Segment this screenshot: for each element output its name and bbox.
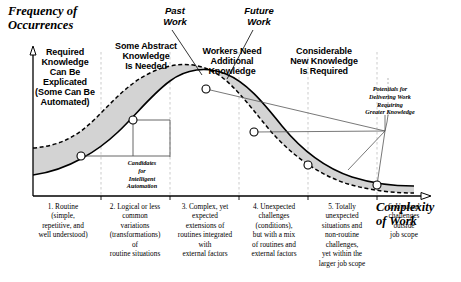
band-label-line: Is Needed (103, 61, 189, 71)
annotation-line: Intelligent (113, 175, 171, 183)
x-category-2: 2. Logical or less common variations (tr… (99, 202, 171, 259)
x-category-1: 1. Routine (simple, repetitive, and well… (28, 202, 98, 240)
band-label-line: (Some Can Be (22, 87, 108, 97)
y-axis-title-line1: Frequency of (8, 4, 138, 18)
band-label-line: Workers Need (190, 46, 274, 56)
x-category-6: 6. Unusual challenges outside job scope (376, 202, 432, 240)
marker-potentials-tail (373, 181, 381, 189)
band-label-line: Explicated (22, 77, 108, 87)
x-category-line: yet within the (308, 249, 376, 258)
x-category-line: repetitive, and (28, 221, 98, 230)
band-label-line: Required (22, 47, 108, 57)
marker-workers (202, 85, 210, 93)
x-category-line: variations (99, 221, 171, 230)
callout-past-work: Past Work (148, 6, 202, 27)
annotation-line: Delivering Work (344, 93, 436, 101)
x-category-line: 1. Routine (28, 202, 98, 211)
x-category-line: unexpected (308, 211, 376, 220)
annotation-line: Potentials for (344, 85, 436, 93)
band-label-line: Is Required (274, 66, 374, 76)
x-category-line: but with a mix (239, 230, 309, 239)
marker-midband (250, 128, 258, 136)
x-category-line: 2. Logical or less (99, 202, 171, 211)
annotation-line: Automation (113, 182, 171, 190)
x-category-line: common (99, 211, 171, 220)
band-label-line: Additional (190, 56, 274, 66)
x-category-line: 3. Complex, yet (169, 202, 241, 211)
x-category-line: job scope (376, 230, 432, 239)
annotation-candidates-for-intelligent-automation: Candidates for Intelligent Automation (113, 159, 171, 190)
x-category-line: of (99, 240, 171, 249)
x-category-line: non-routine (308, 230, 376, 239)
x-category-4: 4. Unexpected challenges (conditions), b… (239, 202, 309, 259)
x-category-line: well understood) (28, 230, 98, 239)
x-category-line: (conditions), (239, 221, 309, 230)
x-category-3: 3. Complex, yet expected extensions of r… (169, 202, 241, 259)
x-category-line: outside (376, 221, 432, 230)
diagram-canvas: Frequency of Occurrences Complexity of W… (0, 0, 461, 282)
band-label-line: Can Be (22, 67, 108, 77)
x-category-line: extensions of (169, 221, 241, 230)
x-axis-arrowhead (421, 193, 431, 200)
x-category-line: expected (169, 211, 241, 220)
x-category-line: (transformations) (99, 230, 171, 239)
x-category-line: external factors (169, 249, 241, 258)
x-category-line: challenges (376, 211, 432, 220)
x-category-line: (simple, (28, 211, 98, 220)
x-category-5: 5. Totally unexpected situations and non… (308, 202, 376, 268)
callout-line: Work (148, 17, 202, 28)
annotation-line: Candidates (113, 159, 171, 167)
x-category-line: 5. Totally (308, 202, 376, 211)
marker-candidates-lower (77, 152, 85, 160)
band-label-workers-need-additional-knowledge: Workers Need Additional Knowledge (190, 46, 274, 76)
x-category-line: 4. Unexpected (239, 202, 309, 211)
band-label-line: Some Abstract (103, 41, 189, 51)
x-category-line: situations and (308, 221, 376, 230)
annotation-line: Requiring (344, 101, 436, 109)
annotation-line: for (113, 167, 171, 175)
band-label-considerable-new-knowledge: Considerable New Knowledge Is Required (274, 46, 374, 76)
annotation-line: Greater Knowledge (344, 108, 436, 116)
callout-line: Work (231, 17, 287, 28)
band-label-required-knowledge: Required Knowledge Can Be Explicated (So… (22, 47, 108, 107)
callout-future-work: Future Work (231, 6, 287, 27)
y-axis-title-line2: Occurrences (8, 18, 138, 32)
band-label-line: Knowledge (103, 51, 189, 61)
band-label-some-abstract-knowledge: Some Abstract Knowledge Is Needed (103, 41, 189, 71)
band-label-line: Knowledge (190, 66, 274, 76)
annotation-potentials-for-delivering-work: Potentials for Delivering Work Requiring… (344, 85, 436, 116)
x-category-line: challenges, (308, 240, 376, 249)
band-label-line: New Knowledge (274, 56, 374, 66)
marker-candidates-upper (129, 116, 137, 124)
band-label-line: Automated) (22, 97, 108, 107)
x-category-line: larger job scope (308, 259, 376, 268)
x-category-line: routines integrated (169, 230, 241, 239)
x-category-line: 6. Unusual (376, 202, 432, 211)
band-label-line: Knowledge (22, 57, 108, 67)
x-category-line: external factors (239, 249, 309, 258)
x-category-line: challenges (239, 211, 309, 220)
x-category-line: routine situations (99, 249, 171, 258)
y-axis-title: Frequency of Occurrences (8, 4, 138, 33)
marker-potentials-band (304, 161, 312, 169)
x-category-line: with (169, 240, 241, 249)
x-category-line: of routines and (239, 240, 309, 249)
band-label-line: Considerable (274, 46, 374, 56)
